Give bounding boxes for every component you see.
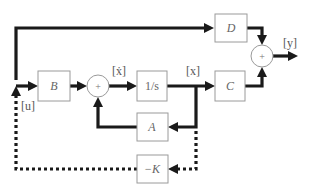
sum-junction-1: + — [87, 75, 109, 97]
signal-y-label: [y] — [283, 36, 297, 50]
block-d: D — [215, 14, 247, 42]
signal-u-label: [u] — [21, 99, 35, 113]
u-to-b-wire — [16, 81, 38, 91]
integrator-to-c-wire — [167, 81, 215, 91]
x-to-k-dotted-wire — [168, 131, 196, 174]
sum1-to-integrator-wire — [109, 81, 137, 91]
block-d-label: D — [226, 21, 236, 35]
c-to-sum2-wire — [245, 67, 267, 86]
block-a-label: A — [147, 120, 156, 134]
block-integrator: 1/s — [137, 71, 167, 101]
signal-xdot-label: [ẋ] — [112, 64, 126, 78]
sum-junction-2: + — [251, 45, 273, 67]
block-c-label: C — [226, 79, 235, 93]
x-to-a-wire — [168, 86, 196, 132]
d-to-sum2-wire — [247, 28, 267, 45]
sum2-to-y-wire — [273, 51, 298, 61]
block-k-label: −K — [144, 162, 161, 176]
sum2-plus-sign: + — [259, 51, 265, 62]
block-k: −K — [137, 155, 168, 183]
b-to-sum1-wire — [70, 81, 87, 91]
sum1-plus-sign: + — [95, 81, 101, 92]
block-a: A — [137, 113, 168, 141]
block-b: B — [38, 71, 70, 101]
block-b-label: B — [50, 79, 58, 93]
state-space-diagram: B 1/s C D A −K + + [u] [ẋ] [x] [y] — [0, 0, 315, 193]
signal-x-label: [x] — [186, 64, 200, 78]
block-integrator-label: 1/s — [145, 79, 159, 93]
a-to-sum1-wire — [93, 97, 137, 127]
block-c: C — [215, 71, 245, 101]
